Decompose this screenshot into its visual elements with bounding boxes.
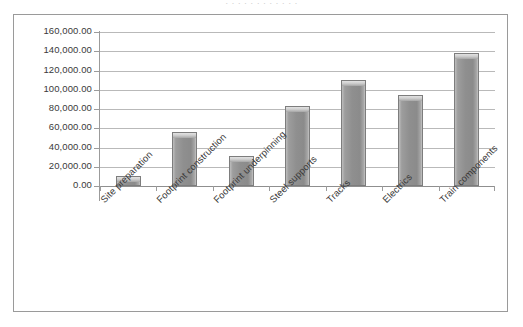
y-axis-tick-label: 140,000.00 (12, 45, 92, 55)
y-axis-tick-label: 100,000.00 (12, 84, 92, 94)
cropped-title-sliver: · · · · · · · · · · · · (0, 0, 523, 12)
bar[interactable] (398, 95, 423, 186)
y-axis-tick-label: 160,000.00 (12, 26, 92, 36)
x-tick-mark (439, 186, 440, 191)
x-tick-mark (382, 186, 383, 191)
y-axis-tick-label: 20,000.00 (12, 161, 92, 171)
y-axis-tick-label: 40,000.00 (12, 142, 92, 152)
gridline (100, 186, 495, 187)
chart-frame: 0.0020,000.0040,000.0060,000.0080,000.00… (13, 14, 508, 312)
bar-top-highlight (286, 107, 309, 112)
x-tick-mark (100, 186, 101, 191)
x-tick-mark (326, 186, 327, 191)
bar[interactable] (341, 80, 366, 186)
bar-top-highlight (173, 133, 196, 138)
y-axis-tick-label: 60,000.00 (12, 122, 92, 132)
y-axis-labels: 0.0020,000.0040,000.0060,000.0080,000.00… (14, 15, 92, 313)
bar-top-highlight (342, 81, 365, 86)
y-axis-tick-label: 0.00 (12, 180, 92, 190)
x-tick-mark (494, 186, 495, 191)
x-tick-mark (213, 186, 214, 191)
x-tick-mark (269, 186, 270, 191)
gridline (100, 51, 495, 52)
x-tick-mark (156, 186, 157, 191)
y-axis-tick-label: 120,000.00 (12, 65, 92, 75)
plot-area (100, 32, 495, 186)
gridline (100, 90, 495, 91)
bar-top-highlight (455, 54, 478, 59)
y-axis-tick-label: 80,000.00 (12, 103, 92, 113)
gridline (100, 71, 495, 72)
gridline (100, 32, 495, 33)
bar-top-highlight (399, 96, 422, 101)
